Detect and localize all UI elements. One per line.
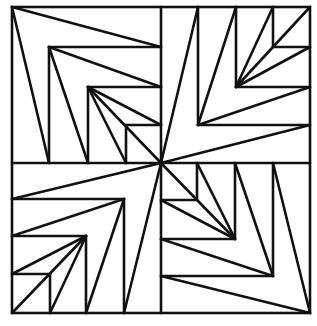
quilt-line (12, 163, 161, 199)
quilt-line (198, 7, 236, 125)
pinwheel-quilt-diagram (0, 0, 317, 326)
quilt-line (235, 163, 273, 276)
quilt-line (161, 125, 310, 163)
cropped-caption (12, 318, 212, 326)
quilt-line (161, 239, 273, 276)
quilt-line (86, 199, 124, 313)
quilt-line (12, 199, 124, 236)
quadrant-top-right (161, 7, 310, 163)
quilt-line (12, 7, 161, 47)
quilt-line (124, 163, 161, 313)
quilt-line (236, 47, 310, 87)
quadrant-bottom-right (161, 163, 310, 313)
quilt-line (198, 87, 310, 125)
quilt-line (161, 7, 198, 163)
quilt-line (49, 47, 88, 163)
quadrant-top-left (12, 7, 161, 163)
quilt-line (236, 7, 273, 87)
quilt-line (273, 163, 310, 313)
quilt-line (12, 236, 86, 274)
quilt-line (161, 276, 310, 313)
quadrant-bottom-left (12, 163, 161, 313)
quilt-line (88, 87, 126, 163)
quilt-line (50, 236, 86, 313)
quilt-line (49, 47, 161, 87)
quilt-line (12, 7, 49, 163)
